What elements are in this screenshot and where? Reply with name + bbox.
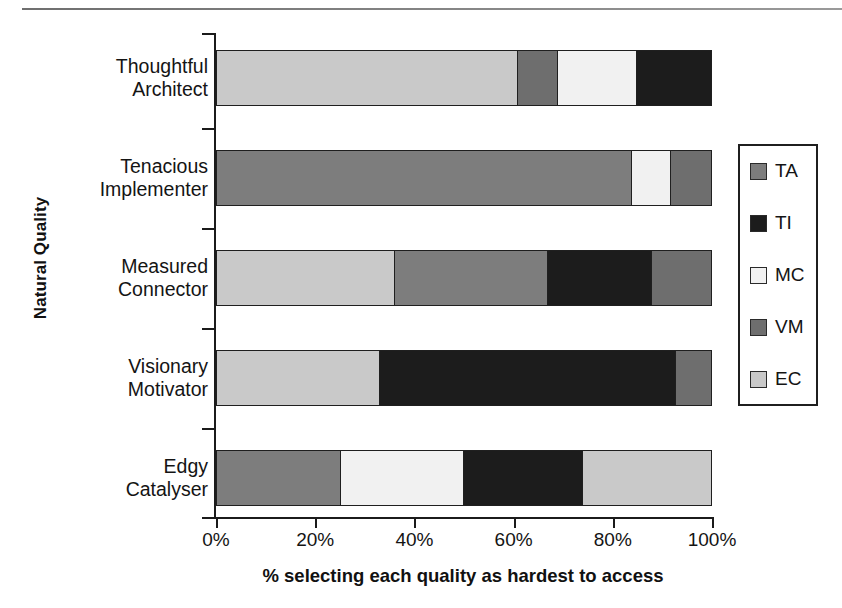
legend-item[interactable]: VM <box>750 316 804 338</box>
legend-item[interactable]: MC <box>750 264 805 286</box>
bar-segment[interactable] <box>217 351 380 405</box>
bar-segment[interactable] <box>464 451 583 505</box>
legend-swatch-icon <box>750 319 767 336</box>
bar-segment[interactable] <box>217 151 632 205</box>
y-axis-category-label: TenaciousImplementer <box>58 155 208 201</box>
y-axis-tick <box>202 228 215 230</box>
category-label-line: Catalyser <box>58 478 208 501</box>
bar-segment[interactable] <box>632 151 672 205</box>
stacked-bar[interactable] <box>216 250 712 306</box>
bar-segment[interactable] <box>637 51 711 105</box>
legend-swatch-icon <box>750 371 767 388</box>
bar-segment[interactable] <box>583 451 711 505</box>
legend-item[interactable]: EC <box>750 368 801 390</box>
legend-item[interactable]: TA <box>750 160 798 182</box>
x-axis-tick-label: 20% <box>280 529 350 551</box>
y-axis-tick <box>202 328 215 330</box>
stacked-bar[interactable] <box>216 50 712 106</box>
x-axis-line <box>214 517 712 519</box>
bar-segment[interactable] <box>518 51 558 105</box>
y-axis-tick <box>202 428 215 430</box>
x-axis-tick <box>315 517 317 528</box>
legend-label: EC <box>775 368 801 390</box>
stacked-bar[interactable] <box>216 450 712 506</box>
bar-segment[interactable] <box>676 351 711 405</box>
bar-segment[interactable] <box>217 51 518 105</box>
bar-segment[interactable] <box>652 251 711 305</box>
x-axis-tick-label: 100% <box>677 529 747 551</box>
y-axis-category-label: VisionaryMotivator <box>58 355 208 401</box>
bar-segment[interactable] <box>217 451 341 505</box>
x-axis-tick-label: 0% <box>181 529 251 551</box>
legend-label: MC <box>775 264 805 286</box>
x-axis-tick <box>414 517 416 528</box>
category-label-line: Architect <box>58 78 208 101</box>
category-label-line: Thoughtful <box>58 55 208 78</box>
category-label-line: Implementer <box>58 178 208 201</box>
bar-segment[interactable] <box>395 251 548 305</box>
x-axis-tick-label: 60% <box>479 529 549 551</box>
y-axis-title: Natural Quality <box>31 173 51 343</box>
legend-swatch-icon <box>750 163 767 180</box>
y-axis-tick <box>202 517 215 519</box>
category-label-line: Tenacious <box>58 155 208 178</box>
x-axis-tick <box>216 517 218 528</box>
legend-item[interactable]: TI <box>750 212 792 234</box>
chart-legend: TATIMCVMEC <box>738 144 818 406</box>
y-axis-category-label: EdgyCatalyser <box>58 455 208 501</box>
category-label-line: Measured <box>58 255 208 278</box>
legend-label: TA <box>775 160 798 182</box>
bar-segment[interactable] <box>341 451 465 505</box>
legend-label: VM <box>775 316 804 338</box>
y-axis-category-label: ThoughtfulArchitect <box>58 55 208 101</box>
bar-segment[interactable] <box>548 251 652 305</box>
y-axis-category-label: MeasuredConnector <box>58 255 208 301</box>
legend-swatch-icon <box>750 215 767 232</box>
bar-segment[interactable] <box>217 251 395 305</box>
stacked-bar-chart: Natural Quality ThoughtfulArchitectTenac… <box>0 0 842 608</box>
x-axis-tick-label: 80% <box>578 529 648 551</box>
legend-label: TI <box>775 212 792 234</box>
category-label-line: Edgy <box>58 455 208 478</box>
x-axis-tick <box>613 517 615 528</box>
x-axis-tick <box>514 517 516 528</box>
stacked-bar[interactable] <box>216 350 712 406</box>
bar-segment[interactable] <box>671 151 711 205</box>
y-axis-tick <box>202 128 215 130</box>
y-axis-tick <box>202 33 215 35</box>
x-axis-tick <box>712 517 714 528</box>
category-label-line: Visionary <box>58 355 208 378</box>
category-label-line: Motivator <box>58 378 208 401</box>
x-axis-tick-label: 40% <box>379 529 449 551</box>
stacked-bar[interactable] <box>216 150 712 206</box>
x-axis-title: % selecting each quality as hardest to a… <box>214 565 712 587</box>
category-label-line: Connector <box>58 278 208 301</box>
bar-segment[interactable] <box>380 351 676 405</box>
bar-segment[interactable] <box>558 51 637 105</box>
y-axis-category-labels: ThoughtfulArchitectTenaciousImplementerM… <box>50 0 208 520</box>
legend-swatch-icon <box>750 267 767 284</box>
